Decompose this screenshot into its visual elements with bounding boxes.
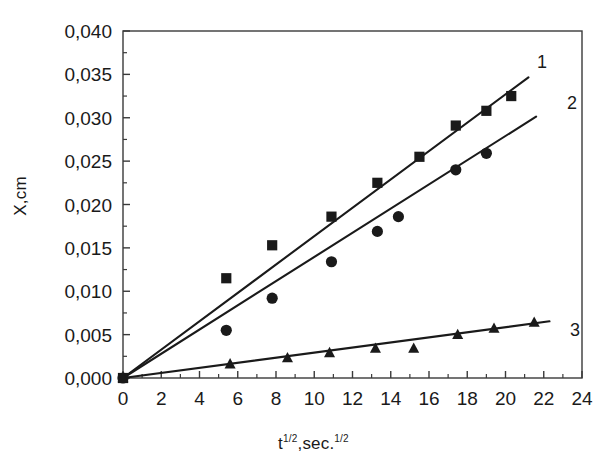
- y-tick-label: 0,035: [64, 64, 112, 85]
- x-axis-title-unit: ,sec.: [297, 434, 334, 453]
- x-tick-label: 18: [457, 388, 478, 409]
- y-tick-label: 0,020: [64, 195, 112, 216]
- series-1-marker: [326, 212, 336, 222]
- series-1-marker: [221, 273, 231, 283]
- series-1-marker: [451, 120, 461, 130]
- series-1-marker: [414, 152, 424, 162]
- x-tick-label: 16: [418, 388, 439, 409]
- x-tick-label: 20: [495, 388, 516, 409]
- y-tick-label: 0,000: [64, 368, 112, 389]
- series-2-marker: [372, 226, 383, 237]
- series-2-marker: [393, 211, 404, 222]
- x-tick-label: 0: [118, 388, 129, 409]
- y-tick-label: 0,005: [64, 325, 112, 346]
- x-tick-label: 2: [156, 388, 167, 409]
- series-1-marker: [267, 240, 277, 250]
- series-1-marker: [506, 91, 516, 101]
- series-1-marker: [372, 178, 382, 188]
- x-axis-title-unit-exponent: 1/2: [334, 433, 349, 444]
- x-tick-label: 8: [271, 388, 282, 409]
- series-1-label: 1: [537, 52, 547, 73]
- series-2-marker: [450, 164, 461, 175]
- series-1-marker: [481, 106, 491, 116]
- series-3-label: 3: [570, 320, 580, 341]
- y-tick-label: 0,015: [64, 238, 112, 259]
- y-tick-label: 0,010: [64, 281, 112, 302]
- y-axis-title-text: X,cm: [11, 176, 30, 216]
- x-tick-label: 10: [304, 388, 325, 409]
- x-tick-label: 24: [571, 388, 593, 409]
- x-axis-title-exponent: 1/2: [283, 433, 298, 444]
- chart-canvas: 0246810121416182022240,0000,0050,0100,01…: [0, 0, 616, 475]
- series-2-marker: [267, 293, 278, 304]
- y-tick-label: 0,030: [64, 108, 112, 129]
- series-2-marker: [481, 148, 492, 159]
- series-2-fit-line: [123, 117, 536, 378]
- x-tick-label: 6: [232, 388, 243, 409]
- x-tick-label: 12: [342, 388, 363, 409]
- x-tick-label: 22: [533, 388, 554, 409]
- y-tick-label: 0,040: [64, 21, 112, 42]
- x-tick-label: 14: [380, 388, 402, 409]
- y-tick-label: 0,025: [64, 151, 112, 172]
- chart-figure: 0246810121416182022240,0000,0050,0100,01…: [0, 0, 616, 475]
- y-axis-title: X,cm: [11, 151, 31, 241]
- x-axis-title: t1/2,sec.1/2: [278, 433, 349, 454]
- series-2-marker: [326, 256, 337, 267]
- series-3-marker: [529, 316, 540, 326]
- x-tick-label: 4: [194, 388, 205, 409]
- series-2-marker: [221, 325, 232, 336]
- series-3-marker: [408, 343, 419, 353]
- series-2-label: 2: [567, 93, 577, 114]
